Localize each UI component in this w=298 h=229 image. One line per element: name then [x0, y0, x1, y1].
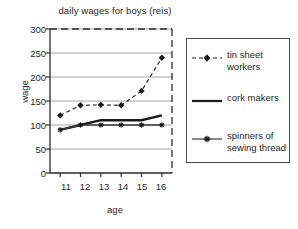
legend-label: cork makers — [227, 92, 289, 104]
legend-swatch-dashed-diamond-icon — [191, 51, 223, 65]
legend: tin sheet workers cork makers spinners o… — [186, 38, 290, 163]
axis-ticks — [46, 29, 162, 177]
legend-label: tin sheet workers — [227, 49, 289, 72]
legend-swatch-star-line-icon — [191, 132, 223, 146]
chart-figure: daily wages for boys (reis) wage age 300… — [0, 0, 298, 229]
gridlines — [50, 29, 172, 149]
data-series-group — [57, 55, 165, 133]
legend-label: spinners of sewing thread — [227, 130, 289, 153]
legend-swatch-solid-icon — [191, 94, 223, 108]
